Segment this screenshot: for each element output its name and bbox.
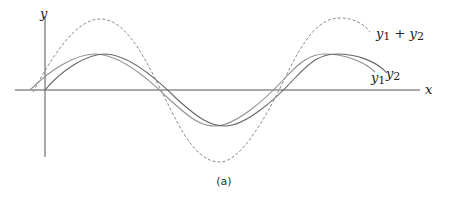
y2-label: y2 [385,66,400,83]
x-axis-label: x [425,82,433,97]
y-axis-label: y [39,6,48,21]
interference-diagram: y x y1 + y2 y1 y2 (a) [0,0,459,209]
figure-caption: (a) [216,175,231,188]
sum-label: y1 + y2 [375,26,424,43]
y1-label: y1 [370,70,385,87]
